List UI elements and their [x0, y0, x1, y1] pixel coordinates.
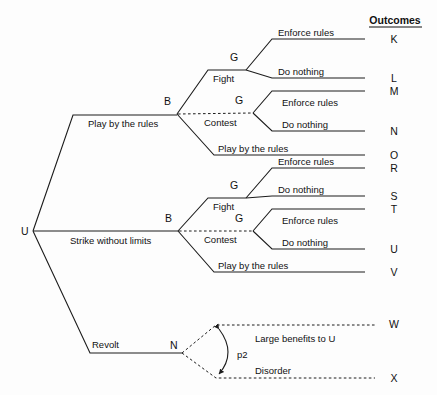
edge-label-do-nothing-N: Do nothing: [282, 119, 328, 130]
outcome-label-R: R: [390, 162, 398, 174]
edge-revolt: [33, 231, 182, 353]
edge-label-enforce-rules-M: Enforce rules: [282, 97, 338, 108]
node-label-g-contest-upper: G: [235, 94, 243, 106]
node-label-g-fight-upper: G: [230, 51, 238, 63]
edge-label-enforce-rules-T: Enforce rules: [282, 215, 338, 226]
edge-contest-upper: [178, 113, 252, 114]
game-tree-svg: U B B G G G G N Play by the rules Strike…: [0, 0, 437, 395]
edge-label-large-benefits-to-u: Large benefits to U: [255, 333, 335, 344]
node-label-b-lower: B: [165, 212, 172, 224]
p2-arc: [219, 329, 228, 374]
outcome-label-W: W: [389, 318, 399, 330]
edge-label-play-by-the-rules-root: Play by the rules: [88, 118, 158, 129]
outcome-label-M: M: [390, 85, 399, 97]
edge-label-contest-lower: Contest: [204, 234, 237, 245]
outcome-label-X: X: [390, 372, 397, 384]
edge-label-disorder: Disorder: [255, 365, 291, 376]
edge-label-enforce-rules-K: Enforce rules: [278, 27, 334, 38]
edge-label-fight-upper: Fight: [213, 73, 234, 84]
outcome-label-K: K: [390, 33, 397, 45]
edge-label-do-nothing-U: Do nothing: [282, 237, 328, 248]
probability-arc: [219, 329, 228, 374]
outcome-label-O: O: [390, 149, 398, 161]
outcome-label-L: L: [391, 72, 397, 84]
edge-label-do-nothing-S: Do nothing: [278, 184, 324, 195]
probability-label-p2: p2: [237, 349, 248, 360]
game-tree-figure: U B B G G G G N Play by the rules Strike…: [0, 0, 437, 395]
edge-label-fight-lower: Fight: [213, 201, 234, 212]
node-label-g-fight-lower: G: [230, 179, 238, 191]
outcome-label-S: S: [390, 190, 397, 202]
outcome-label-U: U: [390, 243, 398, 255]
edge-label-play-by-the-rules-upper-b: Play by the rules: [218, 143, 288, 154]
outcomes-header: Outcomes: [369, 14, 421, 26]
root-branches: [33, 115, 182, 353]
node-label-g-contest-lower: G: [235, 212, 243, 224]
edge-fight-upper: [177, 70, 246, 114]
edge-label-do-nothing-L: Do nothing: [278, 66, 324, 77]
edge-label-enforce-rules-R: Enforce rules: [278, 156, 334, 167]
outcome-label-T: T: [391, 203, 398, 215]
outcome-label-V: V: [390, 266, 397, 278]
edge-do-nothing-S: [246, 196, 365, 198]
edge-label-strike-without-limits: Strike without limits: [70, 235, 152, 246]
node-label-n-chance: N: [170, 339, 178, 351]
outcome-label-N: N: [390, 125, 398, 137]
node-label-root-u: U: [21, 225, 29, 237]
edge-play-by-the-rules: [33, 115, 177, 231]
edge-label-play-by-the-rules-lower-b: Play by the rules: [218, 260, 288, 271]
node-label-b-upper: B: [164, 95, 171, 107]
edge-label-contest-upper: Contest: [204, 117, 237, 128]
edge-label-revolt: Revolt: [92, 339, 119, 350]
